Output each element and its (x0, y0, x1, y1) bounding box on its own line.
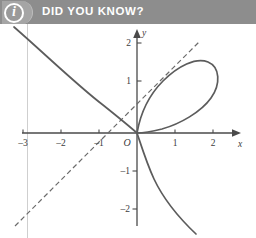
y-axis-arrowhead (133, 29, 141, 38)
badge-letter: i (4, 2, 24, 22)
curve-lower-right-branch (137, 133, 196, 234)
x-tick-label-2: 2 (211, 138, 216, 148)
y-tick-label-1: 1 (126, 76, 131, 86)
did-you-know-panel: DID YOU KNOW? i (0, 0, 256, 238)
figure-area: –3 –2 –1 1 2 2 1 –1 –2 O x y (0, 24, 256, 238)
y-tick-label--1: –1 (120, 166, 131, 176)
x-tick-label--2: –2 (55, 138, 66, 148)
folium-of-descartes-plot: –3 –2 –1 1 2 2 1 –1 –2 O x y (0, 24, 256, 238)
x-tick-label--1: –1 (93, 138, 104, 148)
y-tick-label-2: 2 (126, 38, 131, 48)
curve-upper-left-branch (14, 27, 137, 133)
y-tick-label--2: –2 (120, 204, 131, 214)
x-tick-label--3: –3 (17, 138, 28, 148)
curve-loop (137, 61, 218, 133)
page-title: DID YOU KNOW? (42, 5, 144, 17)
x-axis-arrowhead (232, 129, 241, 137)
x-tick-label-1: 1 (173, 138, 178, 148)
x-axis-label: x (237, 139, 243, 149)
y-axis-label: y (141, 28, 147, 38)
origin-label: O (123, 137, 130, 148)
panel-header: DID YOU KNOW? (0, 0, 256, 24)
